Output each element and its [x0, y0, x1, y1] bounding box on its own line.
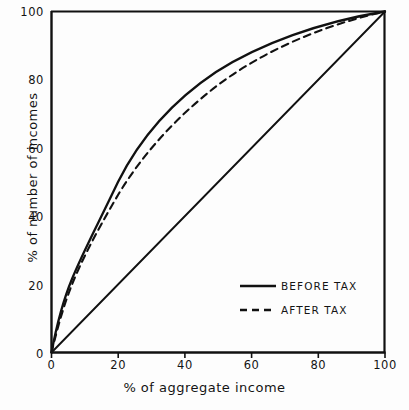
x-tick-label-40: 40: [165, 358, 205, 372]
x-tick-label-20: 20: [98, 358, 138, 372]
equality-line-path: [52, 12, 386, 353]
x-tick-label-80: 80: [298, 358, 338, 372]
x-tick-label-100: 100: [365, 358, 405, 372]
x-tick-label-60: 60: [232, 358, 272, 372]
x-axis-title: % of aggregate income: [0, 380, 409, 395]
chart-canvas: [0, 0, 409, 410]
y-tick-label-0: 0: [4, 347, 44, 361]
lorenz-curve-figure: 0 20 40 60 80 100 0 20 40 60 80 100 % of…: [0, 0, 409, 410]
legend-label-after-tax: AFTER TAX: [281, 304, 348, 316]
data-curves: [52, 12, 386, 353]
legend-samples: [240, 286, 276, 310]
y-axis-title: % of number of incomes: [25, 68, 40, 288]
y-tick-label-100: 100: [4, 5, 44, 19]
legend-label-before-tax: BEFORE TAX: [281, 280, 357, 292]
